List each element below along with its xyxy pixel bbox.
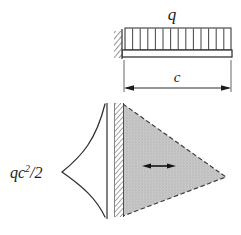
- figure-canvas: q: [0, 0, 241, 235]
- moment-fixed-support-hatch: [115, 103, 124, 217]
- beam-bar: [122, 50, 232, 57]
- beam-fixed-support-hatch: [114, 31, 122, 58]
- moment-label-divisor: /2: [29, 164, 42, 181]
- load-label: q: [168, 5, 177, 24]
- engineering-figure: q: [0, 0, 241, 235]
- moment-label-base: qc: [10, 164, 25, 182]
- span-label: c: [174, 69, 181, 85]
